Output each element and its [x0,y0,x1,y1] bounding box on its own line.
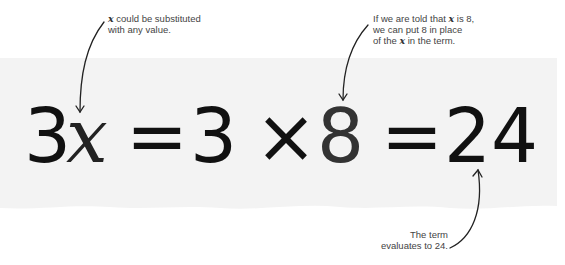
arrowhead-icon [473,170,482,177]
arrow-to-substituted-value [343,25,368,100]
arrow-to-variable [80,22,104,112]
annotation-arrows [0,0,565,265]
arrow-to-result [450,170,480,248]
